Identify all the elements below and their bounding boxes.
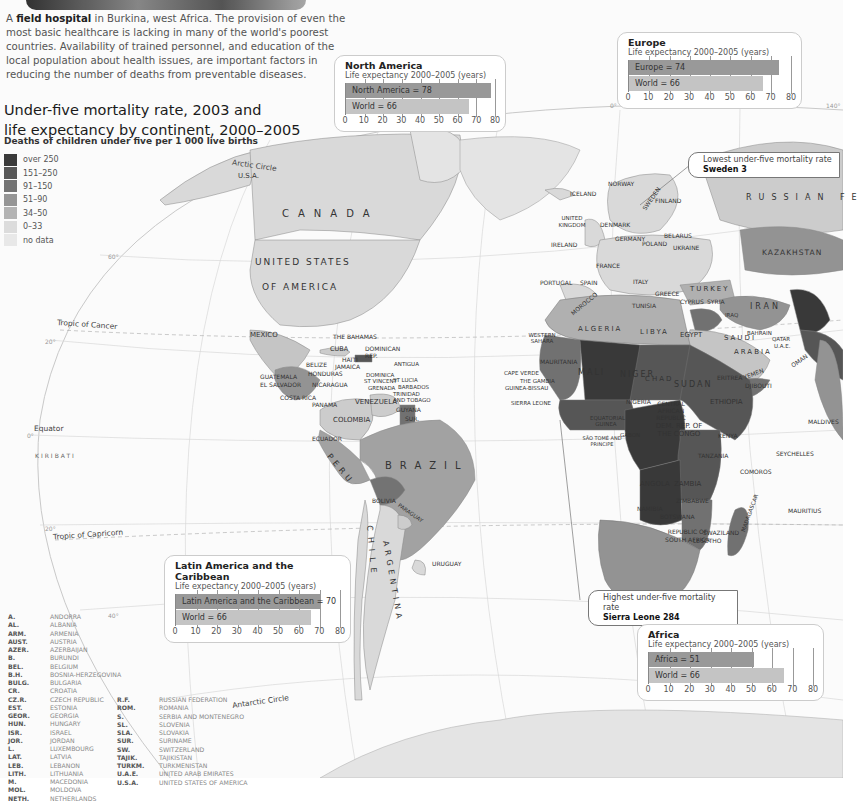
chart-latin-america: Latin America and the Caribbean Life exp… <box>164 555 351 643</box>
abbreviation-country: CROATIA <box>50 687 77 695</box>
bar-world: World = 66 <box>629 76 763 91</box>
abbreviation-row: ROM.ROMANIA <box>117 704 248 712</box>
tick: 80 <box>786 93 796 102</box>
lowest-callout-value: Sweden 3 <box>703 165 747 174</box>
label-belarus: BELARUS <box>664 232 692 239</box>
legend-swatch <box>4 154 17 166</box>
legend-label: 151–250 <box>23 169 58 178</box>
legend-swatch <box>4 167 17 179</box>
highest-callout-value: Sierra Leone 284 <box>603 613 680 622</box>
abbreviation-code: S. <box>117 713 159 721</box>
label-guatemala: GUATEMALA <box>260 373 297 380</box>
abbreviation-country: GEORGIA <box>50 712 79 720</box>
tick: 30 <box>684 93 694 102</box>
abbreviation-row: B.BURUNDI <box>8 654 121 662</box>
abbreviation-code: ROM. <box>117 704 159 712</box>
label-lesotho: LESOTHO <box>693 537 722 544</box>
label-portugal: PORTUGAL <box>540 279 572 286</box>
abbreviation-country: SURINAME <box>159 737 192 745</box>
label-tunisia: TUNISIA <box>632 302 656 309</box>
abbreviation-country: JORDAN <box>50 737 75 745</box>
abbreviation-code: MOL. <box>8 786 50 794</box>
abbreviation-row: LAT.LATVIA <box>8 753 121 761</box>
abbreviation-country: BOSNIA-HERZEGOVINA <box>50 671 121 679</box>
abbreviation-country: TAJIKISTAN <box>159 754 192 762</box>
highest-mortality-callout: Highest under-five mortality rate Sierra… <box>588 590 738 626</box>
abbreviation-code: ISR. <box>8 729 50 737</box>
label-grenada: GRENADA <box>368 385 395 391</box>
label-uae: U.A.E. <box>774 343 790 349</box>
tick: 80 <box>490 116 500 125</box>
label-suriname: SUR. <box>405 415 419 422</box>
abbreviation-code: LITH. <box>8 770 50 778</box>
abbreviation-country: MACEDONIA <box>50 778 88 786</box>
legend-label: over 250 <box>23 155 59 164</box>
abbreviation-row: BEL.BELGIUM <box>8 663 121 671</box>
lowest-mortality-callout: Lowest under-five mortality rate Sweden … <box>688 152 840 178</box>
abbreviation-country: ROMANIA <box>159 704 188 712</box>
chart-title: North America <box>345 60 495 71</box>
abbreviation-row: U.S.A.UNITED STATES OF AMERICA <box>117 779 248 787</box>
label-turkey: TURKEY <box>690 285 730 293</box>
label-kazakhstan: KAZAKHSTAN <box>762 248 822 257</box>
legend-subtitle: Deaths of children under five per 1 000 … <box>4 136 258 146</box>
label-mauritius: MAURITIUS <box>788 507 821 514</box>
legend-item: 91–150 <box>4 180 59 193</box>
label-cyprus: CYPRUS <box>680 298 704 305</box>
label-equatorial-guinea: EQUATORIAL GUINEA <box>590 415 622 427</box>
label-finland: FINLAND <box>655 197 681 204</box>
abbreviation-country: HUNGARY <box>50 720 81 728</box>
chart-north-america: North America Life expectancy 2000–2005 … <box>334 55 506 132</box>
legend-item: 34–50 <box>4 207 59 220</box>
label-ireland: IRELAND <box>551 241 577 248</box>
label-eritrea: ERITREA <box>717 374 742 381</box>
abbreviation-code: AZER. <box>8 646 50 654</box>
label-sudan: SUDAN <box>674 380 712 389</box>
abbreviation-row: CZ.R.CZECH REPUBLIC <box>8 696 121 704</box>
label-iran: IRAN <box>750 302 781 311</box>
label-syria: SYRIA <box>707 298 725 305</box>
abbreviation-code: M. <box>8 778 50 786</box>
label-seychelles: SEYCHELLES <box>776 450 814 457</box>
label-maldives: MALDIVES <box>808 418 839 425</box>
abbreviation-code: AUST. <box>8 638 50 646</box>
legend: over 250 151–250 91–150 51–90 34–50 0–33… <box>4 153 59 247</box>
abbreviation-code: U.A.E. <box>117 770 159 778</box>
legend-label: no data <box>23 236 54 245</box>
label-ethiopia: ETHIOPIA <box>710 398 743 406</box>
chart-africa: Africa Life expectancy 2000–2005 (years)… <box>637 624 824 701</box>
abbreviation-country: SERBIA AND MONTENEGRO <box>159 713 244 721</box>
abbreviation-code: GEOR. <box>8 712 50 720</box>
equator-label: Equator <box>34 424 63 433</box>
bar-world: World = 66 <box>649 668 784 683</box>
tick: 70 <box>787 685 797 694</box>
latitude-60-label: 60° <box>108 253 119 260</box>
label-sierra-leone: SIERRA LEONE <box>511 400 551 406</box>
abbreviation-code: TURKM. <box>117 762 159 770</box>
label-comoros: COMOROS <box>740 468 772 475</box>
abbreviation-row: GEOR.GEORGIA <box>8 712 121 720</box>
chart-axis: 01020304050607080 <box>175 626 340 638</box>
abbreviation-country: MOLDOVA <box>50 786 81 794</box>
abbreviation-country: SLOVENIA <box>159 721 190 729</box>
abbreviation-row: AZER.AZERBAIJAN <box>8 646 121 654</box>
chart-axis: 01020304050607080 <box>648 684 813 696</box>
abbreviation-list-2: R.F.RUSSIAN FEDERATIONROM.ROMANIAS.SERBI… <box>117 696 248 787</box>
abbreviation-row: A.ANDORRA <box>8 613 121 621</box>
label-central-african-republic: CENTRAL AFRICAN REPUBLIC <box>648 400 694 421</box>
label-kenya: KENYA <box>718 432 738 439</box>
abbreviation-code: ARM. <box>8 630 50 638</box>
label-nicaragua: NICARAGUA <box>312 381 348 388</box>
bar-europe: Europe = 74 <box>629 60 779 75</box>
label-france: FRANCE <box>596 262 620 269</box>
chart-bars: Europe = 74 World = 66 <box>628 60 791 92</box>
abbreviation-row: AUST.AUSTRIA <box>8 638 121 646</box>
abbreviation-code: A. <box>8 613 50 621</box>
legend-swatch <box>4 180 17 192</box>
abbreviation-row: U.A.E.UNITED ARAB EMIRATES <box>117 770 248 778</box>
abbreviation-country: UNITED ARAB EMIRATES <box>159 770 234 778</box>
label-tanzania: TANZANIA <box>698 452 728 459</box>
abbreviation-row: L.LUXEMBOURG <box>8 745 121 753</box>
abbreviation-country: ANDORRA <box>50 613 81 621</box>
abbreviation-code: AL. <box>8 621 50 629</box>
